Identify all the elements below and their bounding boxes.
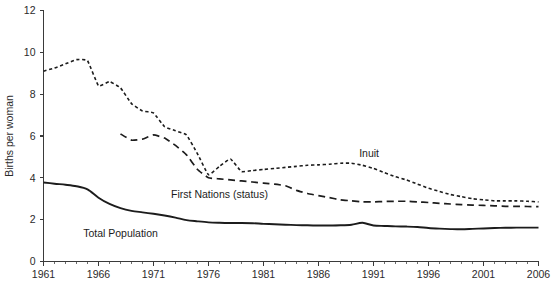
series-line-inuit [44, 59, 539, 201]
y-tick-label: 4 [30, 172, 36, 184]
annotation-total-population: Total Population [83, 227, 158, 239]
x-tick-label: 1996 [417, 268, 441, 280]
y-axis-title-text: Births per woman [3, 95, 15, 177]
y-axis-title: Births per woman [3, 95, 15, 177]
x-tick-label: 1966 [87, 268, 111, 280]
x-tick-label: 2006 [527, 268, 551, 280]
series-line-total-population [44, 182, 539, 229]
x-tick-label: 1986 [307, 268, 331, 280]
axis-lines [44, 11, 539, 262]
chart-canvas: 024681012 196119661971197619811986199119… [0, 0, 556, 288]
fertility-rate-line-chart: 024681012 196119661971197619811986199119… [0, 0, 556, 288]
y-tick-label: 6 [30, 130, 36, 142]
x-tick-label: 1971 [142, 268, 166, 280]
data-series [44, 59, 539, 229]
y-tick-label: 10 [24, 46, 36, 58]
y-tick-label: 2 [30, 213, 36, 225]
annotation-inuit: Inuit [359, 147, 379, 159]
x-axis-tick-labels: 1961196619711976198119861991199620012006 [32, 268, 551, 280]
y-axis-tick-labels: 024681012 [24, 4, 36, 267]
x-tick-label: 2001 [472, 268, 496, 280]
axes [44, 11, 539, 262]
x-tick-label: 1976 [197, 268, 221, 280]
y-tick-label: 12 [24, 4, 36, 16]
annotation-first-nations: First Nations (status) [171, 188, 268, 200]
x-tick-label: 1961 [32, 268, 56, 280]
y-tick-label: 8 [30, 88, 36, 100]
y-tick-label: 0 [30, 255, 36, 267]
x-tick-label: 1991 [362, 268, 386, 280]
x-tick-label: 1981 [252, 268, 276, 280]
